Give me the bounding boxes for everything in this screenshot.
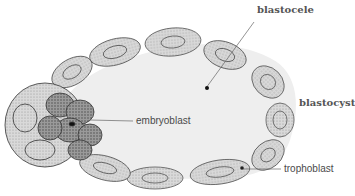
label-blastocyst: blastocyst: [299, 98, 355, 108]
trophoblast-pointer-dot: [240, 166, 244, 170]
blastocele-pointer-dot: [205, 86, 209, 90]
label-embryoblast: embryoblast: [136, 116, 190, 126]
label-trophoblast: trophoblast: [284, 164, 333, 174]
label-blastocele: blastocele: [257, 5, 314, 15]
